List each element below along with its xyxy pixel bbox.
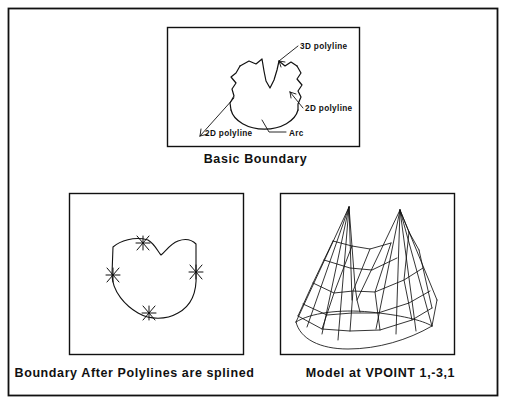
figure-canvas: [0, 0, 511, 408]
panel-splined-boundary: [70, 194, 244, 355]
figure-root: Basic Boundary Boundary After Polylines …: [0, 0, 511, 408]
boundary-3d-polyline: [240, 59, 297, 88]
mesh-peak-right-ridge-d: [400, 210, 416, 331]
panel-model-vpoint: [281, 194, 455, 355]
mesh-peak-right-ridge-a: [357, 210, 400, 300]
boundary-arc: [231, 110, 298, 129]
splined-boundary-outline: [112, 239, 196, 319]
mesh-cross-line: [324, 258, 397, 270]
label-3d-polyline: 3D polyline: [300, 42, 348, 51]
boundary-2d-polyline-left: [230, 66, 240, 110]
mesh-long-line: [419, 250, 432, 308]
outer-frame: [9, 9, 498, 396]
mesh-right-face-edge: [432, 300, 437, 326]
mesh-long-line: [322, 246, 352, 329]
spline-vertex-markers: [106, 236, 203, 320]
model-wireframe-mesh: [296, 207, 437, 349]
mesh-peak-right-ridge-e: [400, 210, 432, 326]
caption-splined-boundary: Boundary After Polylines are splined: [12, 366, 257, 380]
mesh-cross-line: [313, 268, 423, 293]
label-arc: Arc: [289, 129, 304, 138]
caption-basic-boundary: Basic Boundary: [0, 152, 511, 166]
mesh-long-line: [298, 241, 333, 316]
leader-2d-polyline-right: [290, 92, 303, 108]
spline-vertex-marker: [106, 268, 120, 282]
leader-3d-polyline: [279, 46, 298, 61]
panel-splined-boundary-box: [70, 194, 244, 355]
label-2d-polyline-right: 2D polyline: [305, 104, 353, 113]
caption-model-vpoint: Model at VPOINT 1,-3,1: [258, 366, 503, 380]
label-2d-polyline-left: 2D polyline: [205, 129, 253, 138]
spline-vertex-marker: [189, 265, 203, 279]
